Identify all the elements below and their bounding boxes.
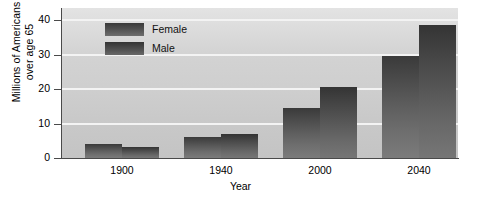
legend-swatch-female <box>105 23 144 36</box>
legend-label-female: Female <box>152 23 187 35</box>
plot-area: FemaleMale <box>62 8 458 158</box>
bar-1900-female <box>85 144 122 158</box>
bar-chart-figure: Millions of Americans over age 65 Female… <box>0 0 481 201</box>
x-axis-title: Year <box>0 180 481 192</box>
y-axis-tick-label: 20 <box>24 82 50 94</box>
y-axis-tick-label: 40 <box>24 13 50 25</box>
y-axis-title-line-1: Millions of Americans <box>10 0 23 122</box>
y-axis-line <box>61 8 62 159</box>
x-axis-tick-label: 2040 <box>389 164 449 176</box>
legend-swatch-male <box>105 42 144 55</box>
bar-1940-male <box>221 134 258 158</box>
bar-2040-male <box>419 25 456 158</box>
x-axis-tick-label: 1940 <box>191 164 251 176</box>
bar-2000-female <box>283 108 320 158</box>
x-axis-line <box>61 158 459 159</box>
bar-1940-female <box>184 137 221 158</box>
bar-2040-female <box>382 56 419 158</box>
y-axis-tick-label: 0 <box>24 151 50 163</box>
y-axis-tick-label: 30 <box>24 48 50 60</box>
legend-label-male: Male <box>152 42 175 54</box>
gridline <box>62 19 458 21</box>
y-axis-tick <box>54 89 61 90</box>
bar-1900-male <box>122 147 159 158</box>
y-axis-tick <box>54 158 61 159</box>
y-axis-tick <box>54 55 61 56</box>
x-axis-tick-label: 1900 <box>92 164 152 176</box>
y-axis-tick <box>54 20 61 21</box>
x-axis-tick-label: 2000 <box>290 164 350 176</box>
y-axis-tick-label: 10 <box>24 117 50 129</box>
bar-2000-male <box>320 87 357 158</box>
y-axis-tick <box>54 124 61 125</box>
